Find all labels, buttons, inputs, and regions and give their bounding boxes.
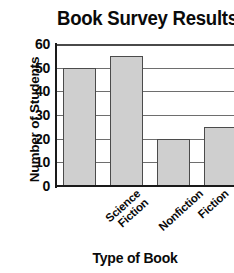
- bar-science-fiction: [63, 68, 96, 186]
- bar-series: [55, 44, 234, 186]
- y-tick-label-50: 50: [26, 63, 50, 73]
- x-axis-tick-labels: Science Fiction Nonfiction Fiction Myste…: [55, 188, 234, 246]
- x-axis-title: Type of Book: [0, 250, 234, 266]
- y-axis-tick-labels: 60 50 40 30 20 10 0: [22, 0, 50, 273]
- x-axis-line: [55, 185, 234, 187]
- y-axis-line: [55, 43, 57, 188]
- y-tick-label-0: 0: [26, 181, 50, 191]
- y-tick-label-20: 20: [26, 134, 50, 144]
- plot-area: [55, 44, 234, 186]
- bar-chart-figure: Book Survey Results Number of Students 6…: [0, 0, 234, 273]
- y-tick-label-40: 40: [26, 86, 50, 96]
- bar-fiction: [157, 139, 190, 186]
- x-tick-label-science-fiction: Science Fiction: [104, 188, 151, 233]
- chart-title: Book Survey Results: [57, 6, 234, 30]
- bar-nonfiction: [110, 56, 143, 186]
- y-tick-label-10: 10: [26, 157, 50, 167]
- bar-mystery: [204, 127, 234, 186]
- y-tick-label-30: 30: [26, 110, 50, 120]
- y-tick-label-60: 60: [26, 39, 50, 49]
